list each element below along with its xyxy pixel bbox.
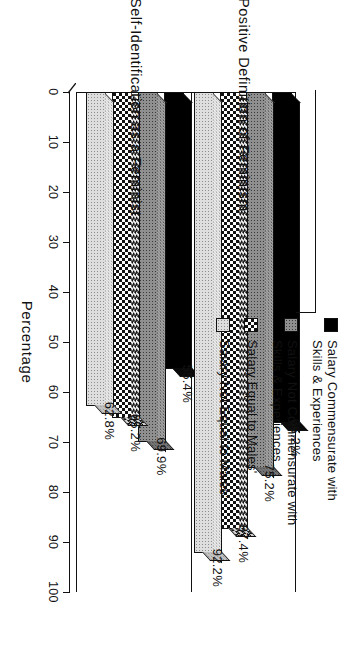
bar-top-face (183, 93, 192, 379)
axis-tick (63, 492, 70, 493)
bar-value-label: 69.9% (154, 437, 169, 475)
bar (86, 92, 106, 406)
category-axis-label: Positive Definition of Feminism (236, 0, 252, 86)
legend-label: Salary Equal to Males' (245, 340, 260, 473)
legend-label: Salary Not Commensurate with Skills & Ex… (270, 340, 299, 526)
legend-label: Salary Not Equal to Males' (217, 340, 232, 498)
axis-tick-label: 40 (46, 285, 60, 300)
bar-value-label: 65.2% (128, 414, 143, 452)
axis-tick (63, 542, 70, 543)
checkerboard-swatch (244, 318, 258, 332)
axis-tick-label: 70 (46, 435, 60, 450)
bar-top-face (105, 93, 114, 416)
axis-tick (63, 192, 70, 193)
axis-tick-label: 30 (46, 235, 60, 250)
axis-tick-label: 80 (46, 485, 60, 500)
axis-tick-label: 0 (46, 88, 60, 95)
category-axis-label: Self-Identification as a Feminist (128, 0, 144, 86)
axis-tick-label: 50 (46, 335, 60, 350)
axis-tick-label: 90 (46, 535, 60, 550)
bar-value-label: 62.8% (102, 402, 117, 440)
medium-gray-dotted-swatch (284, 318, 298, 332)
bar (194, 92, 214, 553)
axis-tick-label: 100 (46, 581, 60, 603)
axis-tick (63, 592, 70, 593)
axis-tick-label: 20 (46, 185, 60, 200)
solid-black-swatch (324, 318, 338, 332)
axis-tick (63, 242, 70, 243)
bar-top-face (157, 93, 166, 452)
legend-label: Salary Commensurate with Skills & Experi… (310, 340, 339, 501)
axis-tick (63, 442, 70, 443)
legend-leader-line-vertical (296, 312, 316, 313)
axis-tick-label: 10 (46, 135, 60, 150)
bar-value-label: 55.4% (180, 365, 195, 403)
axis-tick (63, 342, 70, 343)
bar-value-label: 87.4% (236, 525, 251, 563)
axis-tick (63, 92, 70, 93)
light-dotted-swatch (216, 318, 230, 332)
axis-tick (63, 392, 70, 393)
legend-leader-line (315, 90, 316, 312)
bar (164, 92, 184, 369)
value-axis-title: Percentage (19, 92, 36, 592)
bar-value-label: 92.2% (210, 549, 225, 587)
axis-tick-label: 60 (46, 385, 60, 400)
axis-tick (63, 142, 70, 143)
axis-tick (63, 292, 70, 293)
